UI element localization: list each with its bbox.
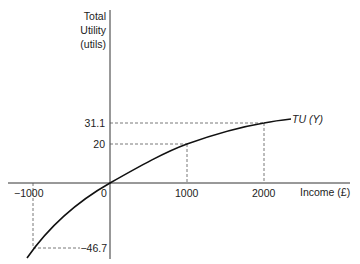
y-axis-label-line1: Total xyxy=(84,10,106,22)
curve-label: TU (Y) xyxy=(292,113,323,125)
y-tick-31-1: 31.1 xyxy=(85,117,105,129)
guide-lines xyxy=(33,123,264,248)
x-tick-2000: 2000 xyxy=(252,187,275,199)
y-axis-label-line2: Utility xyxy=(80,24,106,36)
curve-label-tu: TU xyxy=(292,113,306,125)
y-tick-neg-46-7: −46.7 xyxy=(80,242,107,254)
x-tick-1000: 1000 xyxy=(175,187,198,199)
y-axis-label-line3: (utils) xyxy=(80,38,106,50)
x-tick-neg-1000: −1000 xyxy=(14,187,44,199)
chart-canvas xyxy=(0,0,360,264)
x-tick-0: 0 xyxy=(101,187,107,199)
x-axis-label: Income (£) xyxy=(300,186,350,198)
y-tick-20: 20 xyxy=(93,138,105,150)
curve-label-y: (Y) xyxy=(306,113,323,125)
